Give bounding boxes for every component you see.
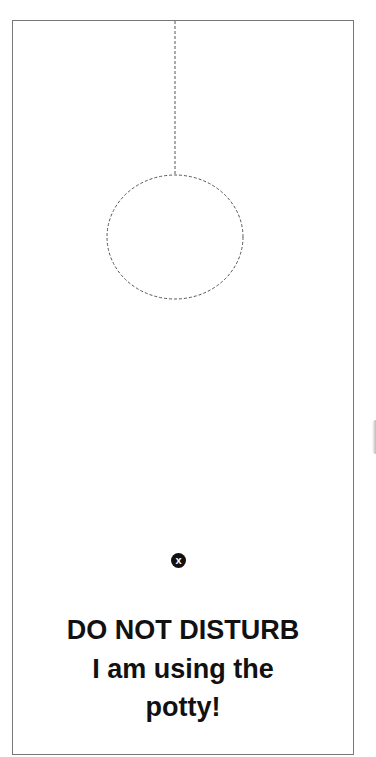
close-x-icon: x bbox=[171, 553, 186, 568]
edge-shadow bbox=[372, 420, 376, 454]
handle-hole-cutline bbox=[107, 175, 243, 299]
sign-line-3: potty! bbox=[12, 694, 354, 721]
sign-line-2: I am using the bbox=[12, 656, 354, 683]
sign-headline: DO NOT DISTURB bbox=[12, 617, 354, 644]
